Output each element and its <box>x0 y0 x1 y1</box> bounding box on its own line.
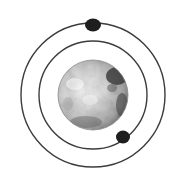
inner-moon <box>116 131 130 144</box>
planet <box>58 60 128 130</box>
planet-orbit-diagram <box>0 0 181 183</box>
outer-moon <box>85 19 101 32</box>
